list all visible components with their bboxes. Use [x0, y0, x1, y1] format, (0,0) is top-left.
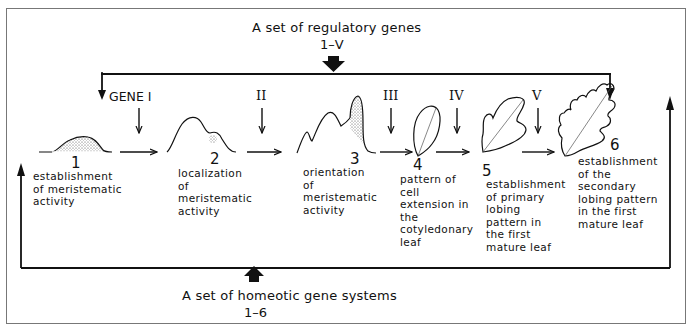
arrow-down-right-icon — [606, 88, 614, 100]
homeotic-systems-range: 1–6 — [244, 305, 267, 320]
stage-description-4: pattern of cell extension in the cotyled… — [400, 173, 472, 249]
stage-1-meristem-dome — [39, 137, 112, 152]
gene-label-2: II — [256, 88, 266, 103]
homeotic-systems-title: A set of homeotic gene systems — [182, 288, 397, 303]
stage-description-6: establishment of the secondary lobing pa… — [578, 155, 670, 231]
stage-5-primary-lobed-leaf — [482, 97, 526, 152]
stage-2-localized-meristem — [167, 117, 236, 152]
gene-label-5: V — [532, 88, 541, 103]
stage-6-secondary-lobed-leaf — [558, 84, 615, 156]
stage-number-2: 2 — [210, 150, 220, 168]
arrow-up-right-icon — [666, 96, 674, 110]
stage-description-2: localization of meristematic activity — [178, 167, 253, 217]
gene-label-1: GENE I — [109, 89, 152, 104]
gene-label-4: IV — [449, 88, 464, 103]
regulatory-genes-title: A set of regulatory genes — [252, 20, 421, 35]
stage-description-5: establishment of primary lobing pattern … — [486, 178, 560, 254]
stage-description-1: establishment of meristematic activity — [33, 170, 125, 208]
stage-4-cotyledon-leaf — [414, 106, 440, 156]
arrow-down-left-icon — [98, 90, 106, 100]
heavy-arrow-down-icon — [322, 56, 345, 72]
stage-number-4: 4 — [413, 156, 423, 174]
stage-number-6: 6 — [610, 136, 620, 154]
regulatory-genes-range: 1–V — [320, 37, 344, 52]
stage-description-3: orientation of meristematic activity — [303, 166, 375, 216]
gene-label-3: III — [383, 88, 398, 103]
stage-3-oriented-meristem — [297, 96, 376, 153]
arrow-up-left-icon — [17, 163, 25, 176]
